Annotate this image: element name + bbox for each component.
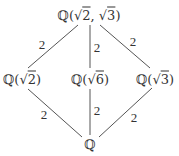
node-right: ℚ(√3)	[136, 73, 174, 86]
degree-label-top-left: 2	[39, 38, 46, 51]
degree-label-middle-bottom: 2	[94, 104, 101, 117]
degree-label-top-right: 2	[130, 35, 137, 48]
field-symbol: ℚ	[71, 72, 82, 87]
sqrt-symbol: √	[99, 8, 107, 23]
paren-close: )	[104, 72, 109, 87]
node-middle: ℚ(√6)	[71, 73, 109, 86]
field-symbol: ℚ	[84, 137, 95, 152]
paren-close: )	[169, 72, 174, 87]
node-left: ℚ(√2)	[3, 73, 41, 86]
field-symbol: ℚ	[3, 72, 14, 87]
edge-left-bottom	[28, 89, 82, 137]
radicand: 6	[96, 72, 104, 87]
separator: ,	[91, 8, 99, 23]
node-top: ℚ(√2, √3)	[58, 9, 121, 22]
edge-top-left	[28, 25, 78, 68]
edge-top-right	[100, 25, 150, 68]
degree-label-left-bottom: 2	[41, 108, 48, 121]
field-symbol: ℚ	[58, 8, 69, 23]
edge-right-bottom	[99, 88, 152, 137]
degree-label-right-bottom: 2	[131, 111, 138, 124]
sqrt-symbol: √	[87, 72, 95, 87]
node-bottom: ℚ	[84, 138, 95, 151]
degree-label-top-middle: 2	[94, 41, 101, 54]
radicand: 2	[28, 72, 36, 87]
sqrt-symbol: √	[152, 72, 160, 87]
paren-close: )	[115, 8, 120, 23]
radicand: 2	[82, 8, 90, 23]
radicand: 3	[107, 8, 115, 23]
field-lattice-diagram: ℚ(√2, √3) ℚ(√2) ℚ(√6) ℚ(√3) ℚ 2 2 2 2 2 …	[0, 0, 179, 156]
sqrt-symbol: √	[19, 72, 27, 87]
field-symbol: ℚ	[136, 72, 147, 87]
radicand: 3	[161, 72, 169, 87]
sqrt-symbol: √	[74, 8, 82, 23]
paren-close: )	[36, 72, 41, 87]
